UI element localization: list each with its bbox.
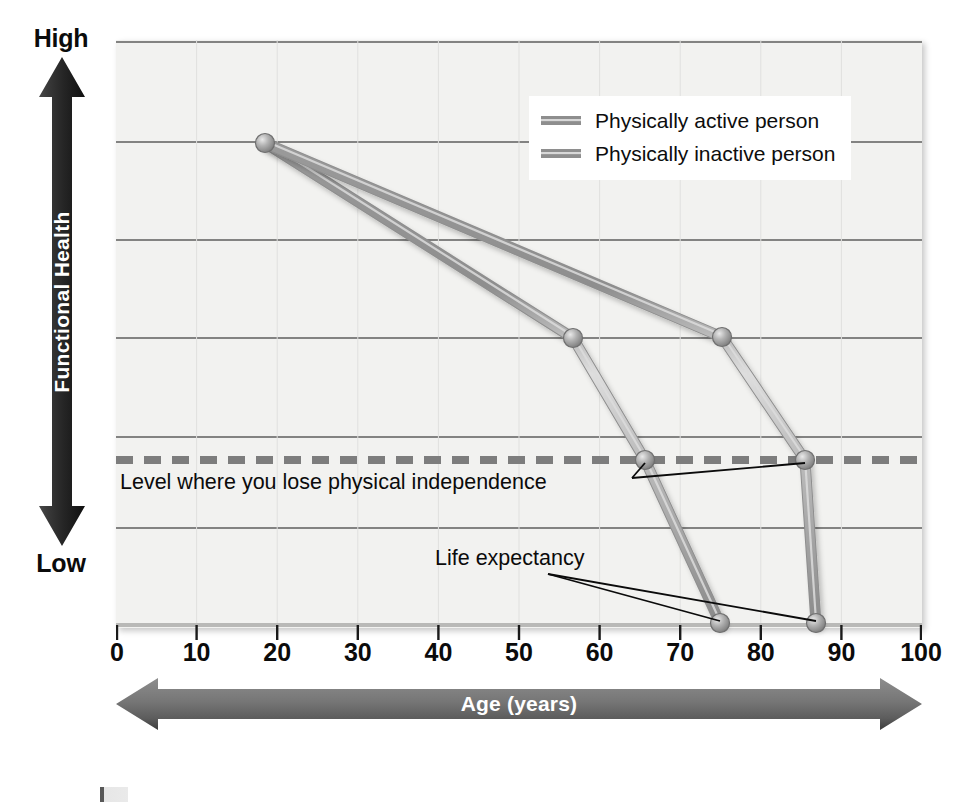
legend-item-inactive: Physically inactive person [541, 137, 835, 170]
y-axis-low-label: Low [6, 549, 116, 578]
data-point-start [256, 134, 275, 153]
data-point-active-life-expectancy [807, 614, 826, 633]
x-tick-40: 40 [424, 638, 452, 667]
data-point-active-knee [713, 328, 732, 347]
legend-label-inactive: Physically inactive person [595, 142, 835, 166]
x-tick-80: 80 [747, 638, 775, 667]
data-point-inactive-independence [636, 451, 655, 470]
x-tick-90: 90 [827, 638, 855, 667]
x-tick-70: 70 [666, 638, 694, 667]
chart-legend: Physically active person Physically inac… [529, 96, 851, 180]
x-tick-30: 30 [344, 638, 372, 667]
y-axis-high-label: High [6, 24, 116, 53]
legend-swatch-active-icon [541, 116, 581, 125]
page-artifact [100, 787, 128, 802]
legend-label-active: Physically active person [595, 109, 819, 133]
legend-swatch-inactive-icon [541, 149, 581, 158]
x-axis-tick-labels: 0 10 20 30 40 50 60 70 80 90 100 [116, 638, 922, 670]
data-point-inactive-life-expectancy [711, 614, 730, 633]
x-tick-10: 10 [183, 638, 211, 667]
data-point-inactive-knee [564, 329, 583, 348]
data-point-active-independence [796, 451, 815, 470]
chart-figure: High Functional Health Low [0, 0, 967, 802]
x-tick-0: 0 [110, 638, 124, 667]
x-tick-60: 60 [586, 638, 614, 667]
x-axis-arrow [116, 676, 922, 732]
x-tick-20: 20 [263, 638, 291, 667]
x-tick-50: 50 [505, 638, 533, 667]
annotation-life-expectancy-label: Life expectancy [435, 546, 584, 571]
y-axis-arrow [39, 57, 85, 546]
x-tick-100: 100 [900, 638, 942, 667]
annotation-independence-label: Level where you lose physical independen… [120, 470, 547, 495]
legend-item-active: Physically active person [541, 104, 835, 137]
